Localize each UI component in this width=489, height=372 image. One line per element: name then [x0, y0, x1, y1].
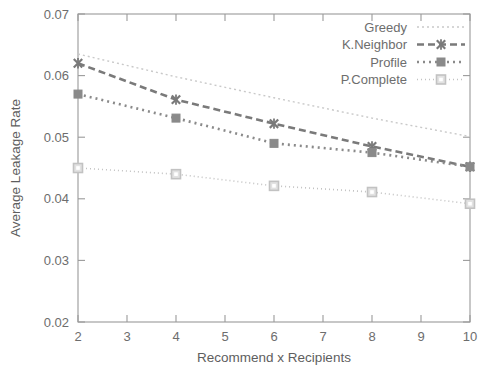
x-axis-title: Recommend x Recipients [197, 350, 351, 365]
series-marker [468, 202, 472, 206]
y-tick-label: 0.03 [44, 253, 69, 268]
series-marker [74, 90, 82, 98]
y-tick-label: 0.02 [44, 315, 69, 330]
x-tick-label: 8 [368, 329, 375, 344]
y-tick-label: 0.04 [44, 191, 69, 206]
x-tick-label: 7 [319, 329, 326, 344]
x-tick-label: 9 [417, 329, 424, 344]
y-tick-label: 0.07 [44, 7, 69, 22]
x-tick-label: 2 [74, 329, 81, 344]
legend-label-0: Greedy [364, 20, 407, 35]
legend-label-2: Profile [370, 55, 407, 70]
y-tick-label: 0.05 [44, 130, 69, 145]
series-marker [370, 190, 374, 194]
y-axis-title: Average Leakage Rate [8, 99, 23, 237]
legend-marker-2 [437, 58, 445, 66]
chart-legend: GreedyK.NeighborProfileP.Complete [341, 20, 465, 88]
series-profile [74, 90, 474, 171]
series-marker [74, 164, 83, 173]
series-marker [76, 166, 80, 170]
series-marker [466, 199, 475, 208]
legend-label-3: P.Complete [341, 72, 407, 87]
legend-marker-3 [437, 75, 446, 84]
y-tick-label: 0.06 [44, 68, 69, 83]
data-series-layer [74, 54, 475, 208]
x-tick-label: 4 [172, 329, 179, 344]
y-axis-tick-labels: 0.020.030.040.050.060.07 [44, 7, 69, 330]
line-chart-plot: 0.020.030.040.050.060.07 2345678910 Gree… [0, 0, 489, 372]
x-tick-label: 3 [123, 329, 130, 344]
legend-marker-3 [439, 78, 443, 82]
series-p-complete [74, 164, 475, 209]
legend-label-1: K.Neighbor [342, 37, 408, 52]
series-k-neighbor [74, 58, 474, 172]
series-marker [174, 172, 178, 176]
series-marker [270, 139, 278, 147]
x-tick-label: 5 [221, 329, 228, 344]
series-line [78, 63, 470, 166]
chart-container: 0.020.030.040.050.060.07 2345678910 Gree… [0, 0, 489, 372]
x-tick-label: 10 [463, 329, 477, 344]
series-marker [368, 188, 377, 197]
series-marker [172, 170, 181, 179]
x-tick-label: 6 [270, 329, 277, 344]
series-marker [272, 184, 276, 188]
plot-frame [78, 14, 470, 322]
series-marker [368, 149, 376, 157]
series-marker [172, 114, 180, 122]
x-axis-ticks [78, 14, 470, 322]
series-marker [466, 163, 474, 171]
y-axis-ticks [78, 14, 470, 322]
series-marker [270, 181, 279, 190]
x-axis-tick-labels: 2345678910 [74, 329, 477, 344]
